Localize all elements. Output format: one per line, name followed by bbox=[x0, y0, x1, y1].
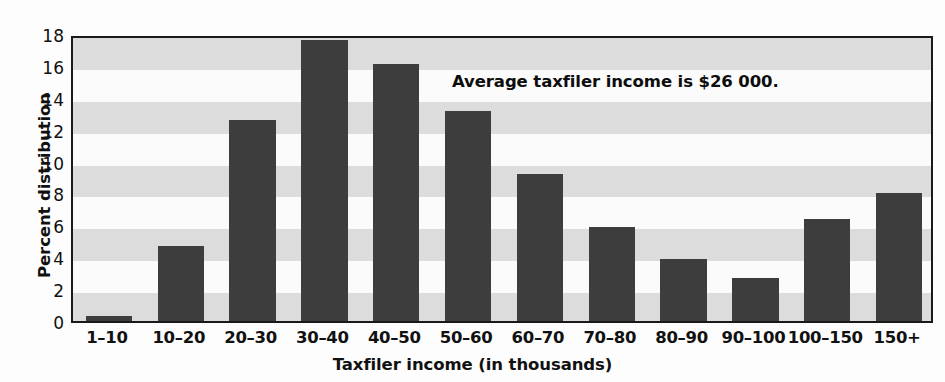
bar bbox=[804, 219, 850, 321]
y-axis-tick-label: 16 bbox=[2, 59, 64, 76]
x-axis-tick-label: 100–150 bbox=[788, 328, 863, 347]
y-axis-tick-label: 6 bbox=[2, 219, 64, 236]
bar bbox=[589, 227, 635, 321]
y-axis-tick-label: 10 bbox=[2, 155, 64, 172]
x-axis-tick-label: 40–50 bbox=[368, 328, 421, 347]
y-axis-tick-label: 2 bbox=[2, 283, 64, 300]
bar bbox=[301, 40, 347, 321]
bar bbox=[732, 278, 778, 321]
x-axis-tick-label: 1–10 bbox=[86, 328, 128, 347]
x-axis-tick-label: 70–80 bbox=[583, 328, 636, 347]
x-axis-tick-label: 90–100 bbox=[721, 328, 785, 347]
x-axis-title: Taxfiler income (in thousands) bbox=[0, 355, 945, 374]
x-axis-tick-label: 10–20 bbox=[152, 328, 205, 347]
x-axis-tick-label: 60–70 bbox=[512, 328, 565, 347]
x-axis-tick-label: 150+ bbox=[874, 328, 921, 347]
bar bbox=[86, 316, 132, 321]
bar bbox=[517, 174, 563, 321]
average-income-annotation: Average taxfiler income is $26 000. bbox=[452, 72, 779, 91]
x-axis-tick-label: 80–90 bbox=[655, 328, 708, 347]
bar bbox=[660, 259, 706, 321]
x-axis-tick-labels: 1–1010–2020–3030–4040–5050–6060–7070–808… bbox=[71, 328, 933, 354]
x-axis-tick-label: 30–40 bbox=[296, 328, 349, 347]
y-axis-tick-labels: 024681012141618 bbox=[0, 0, 64, 382]
chart-figure: Percent distribution 024681012141618 Ave… bbox=[0, 0, 945, 382]
y-axis-tick-label: 4 bbox=[2, 251, 64, 268]
y-axis-tick-label: 18 bbox=[2, 28, 64, 45]
y-axis-tick-label: 0 bbox=[2, 315, 64, 332]
y-axis-tick-label: 8 bbox=[2, 187, 64, 204]
bar bbox=[158, 246, 204, 321]
y-axis-tick-label: 14 bbox=[2, 91, 64, 108]
bar bbox=[445, 111, 491, 321]
x-axis-tick-label: 50–60 bbox=[440, 328, 493, 347]
x-axis-tick-label: 20–30 bbox=[224, 328, 277, 347]
bar bbox=[229, 120, 275, 321]
bar bbox=[373, 64, 419, 321]
y-axis-tick-label: 12 bbox=[2, 123, 64, 140]
bar bbox=[876, 193, 922, 321]
